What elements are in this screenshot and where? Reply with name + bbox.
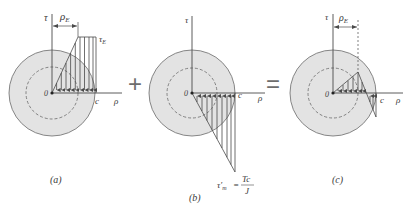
origin-label: 0	[44, 89, 48, 98]
caption-a: (a)	[50, 174, 62, 186]
rho-axis-label: ρ	[395, 95, 401, 105]
radius-c-label: c	[380, 95, 384, 105]
rho-e-label: ρE	[338, 12, 349, 25]
panel-c: τ ρE 0 c ρ (c)	[290, 12, 403, 186]
panel-b: τ 0 c ρ τ′m = Tc J (b)	[149, 15, 265, 204]
rho-axis-label: ρ	[257, 93, 263, 103]
tau-axis-label: τ	[44, 12, 48, 23]
formula-denominator: J	[245, 186, 250, 196]
max-stress-formula: τ′m = Tc J	[217, 174, 254, 196]
origin-dot	[190, 91, 193, 94]
origin-dot	[331, 91, 334, 94]
tau-m-label: τ′m	[217, 180, 227, 191]
tau-e-label: τE	[99, 34, 106, 45]
caption-c: (c)	[332, 174, 344, 186]
formula-numerator: Tc	[242, 174, 250, 184]
panel-a: τ ρE τE 0 c ρ (a)	[9, 10, 122, 186]
origin-label: 0	[325, 90, 329, 99]
radius-c-label: c	[238, 90, 242, 100]
rho-e-label: ρE	[59, 10, 70, 24]
stress-distribution-diagram: τ ρE τE 0 c ρ (a) + τ 0 c ρ	[0, 0, 409, 212]
tau-axis-label: τ	[325, 12, 329, 22]
plus-operator: +	[128, 70, 142, 97]
formula-equals: =	[233, 180, 239, 190]
equals-operator: =	[266, 70, 280, 97]
radius-c-label: c	[95, 96, 99, 106]
origin-dot	[50, 91, 53, 94]
rho-axis-label: ρ	[113, 96, 119, 106]
tau-axis-label: τ	[185, 15, 189, 25]
caption-b: (b)	[189, 192, 201, 204]
origin-label: 0	[184, 89, 188, 98]
